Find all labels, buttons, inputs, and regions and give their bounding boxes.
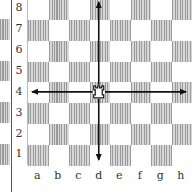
- file-label-a: a: [27, 170, 47, 182]
- file-label-h: h: [171, 170, 191, 182]
- fragment-cell: [0, 102, 10, 123]
- fragment-cell: [0, 123, 10, 144]
- square-e6: [110, 41, 131, 62]
- square-f8: [131, 0, 152, 20]
- square-h4: [172, 82, 193, 103]
- rank-label-3: 3: [14, 107, 24, 119]
- square-h8: [172, 0, 193, 20]
- square-d5: [90, 62, 111, 83]
- square-h6: [172, 41, 193, 62]
- square-c6: [69, 41, 90, 62]
- square-a8: [28, 0, 49, 20]
- fragment-cell: [0, 19, 10, 40]
- square-a6: [28, 41, 49, 62]
- rank-label-8: 8: [14, 2, 24, 14]
- square-c4: [69, 82, 90, 103]
- square-a5: [28, 62, 49, 83]
- square-a1: [28, 145, 49, 166]
- rank-label-7: 7: [14, 23, 24, 35]
- square-h5: [172, 62, 193, 83]
- square-d7: [90, 20, 111, 41]
- square-a7: [28, 20, 49, 41]
- square-h3: [172, 103, 193, 124]
- square-g1: [151, 145, 172, 166]
- square-f5: [131, 62, 152, 83]
- adjacent-board-fragment: [0, 0, 10, 192]
- file-label-e: e: [109, 170, 129, 182]
- square-e1: [110, 145, 131, 166]
- file-label-c: c: [68, 170, 88, 182]
- fragment-cell: [0, 81, 10, 102]
- square-d6: [90, 41, 111, 62]
- square-c8: [69, 0, 90, 20]
- square-d3: [90, 103, 111, 124]
- square-d4: [90, 82, 111, 103]
- square-b2: [49, 124, 70, 145]
- rank-label-6: 6: [14, 44, 24, 56]
- square-g7: [151, 20, 172, 41]
- square-c5: [69, 62, 90, 83]
- square-c2: [69, 124, 90, 145]
- square-e4: [110, 82, 131, 103]
- square-f4: [131, 82, 152, 103]
- square-g8: [151, 0, 172, 20]
- rank-label-4: 4: [14, 86, 24, 98]
- file-label-f: f: [130, 170, 150, 182]
- square-f3: [131, 103, 152, 124]
- rank-label-5: 5: [14, 65, 24, 77]
- fragment-cell: [0, 144, 10, 165]
- square-e8: [110, 0, 131, 20]
- square-f1: [131, 145, 152, 166]
- chessboard: [27, 0, 191, 165]
- square-d1: [90, 145, 111, 166]
- fragment-cell: [0, 61, 10, 82]
- divider-line: [11, 0, 12, 192]
- square-f2: [131, 124, 152, 145]
- square-e3: [110, 103, 131, 124]
- square-c7: [69, 20, 90, 41]
- square-h2: [172, 124, 193, 145]
- fragment-cell: [0, 40, 10, 61]
- rank-label-1: 1: [14, 148, 24, 160]
- square-g5: [151, 62, 172, 83]
- square-b7: [49, 20, 70, 41]
- square-e7: [110, 20, 131, 41]
- square-g4: [151, 82, 172, 103]
- square-a4: [28, 82, 49, 103]
- square-c1: [69, 145, 90, 166]
- square-b8: [49, 0, 70, 20]
- square-c3: [69, 103, 90, 124]
- file-label-g: g: [150, 170, 170, 182]
- square-b3: [49, 103, 70, 124]
- fragment-cell: [0, 0, 10, 19]
- square-h1: [172, 145, 193, 166]
- square-b6: [49, 41, 70, 62]
- square-b1: [49, 145, 70, 166]
- square-g3: [151, 103, 172, 124]
- square-b5: [49, 62, 70, 83]
- rank-label-2: 2: [14, 128, 24, 140]
- square-a3: [28, 103, 49, 124]
- square-e2: [110, 124, 131, 145]
- square-a2: [28, 124, 49, 145]
- square-d8: [90, 0, 111, 20]
- square-f6: [131, 41, 152, 62]
- file-label-d: d: [89, 170, 109, 182]
- square-f7: [131, 20, 152, 41]
- square-e5: [110, 62, 131, 83]
- square-g6: [151, 41, 172, 62]
- square-d2: [90, 124, 111, 145]
- file-label-b: b: [48, 170, 68, 182]
- square-h7: [172, 20, 193, 41]
- square-g2: [151, 124, 172, 145]
- square-b4: [49, 82, 70, 103]
